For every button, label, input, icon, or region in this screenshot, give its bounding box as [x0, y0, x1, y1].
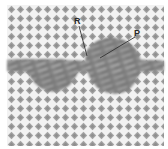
lattice-image — [0, 0, 168, 149]
label-r: R — [74, 17, 81, 26]
micrograph-figure: R P — [0, 0, 168, 149]
label-p: P — [134, 29, 140, 38]
